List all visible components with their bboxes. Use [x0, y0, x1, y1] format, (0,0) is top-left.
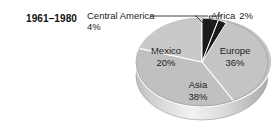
slice-label-asia: Asia 38% [178, 79, 218, 102]
slice-name-europe: Europe [212, 45, 258, 57]
slice-label-europe: Europe 36% [212, 45, 258, 68]
pie-graphic [0, 0, 274, 136]
slice-value-europe: 36% [212, 57, 258, 69]
slice-value-mexico: 20% [143, 57, 189, 69]
slice-label-mexico: Mexico 20% [143, 45, 189, 68]
slice-name-mexico: Mexico [143, 45, 189, 57]
slice-value-asia: 38% [178, 91, 218, 103]
pie-chart-figure: 1961–1980 Central America 4% Africa2% [0, 0, 274, 136]
slice-name-asia: Asia [178, 79, 218, 91]
